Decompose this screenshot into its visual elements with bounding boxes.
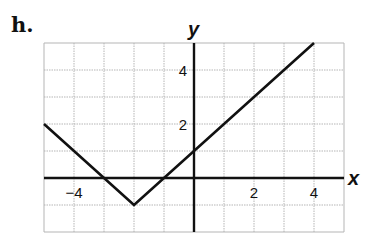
x-tick-label: 2	[250, 184, 258, 201]
y-axis-label: y	[187, 18, 200, 40]
y-tick-label: 2	[179, 116, 187, 133]
tick-labels: −42424	[65, 62, 318, 201]
x-tick-label: −4	[65, 184, 82, 201]
y-tick-label: 4	[179, 62, 187, 79]
coordinate-plane: −42424 x y	[0, 0, 382, 244]
x-axis-label: x	[347, 167, 360, 189]
x-tick-label: 4	[310, 184, 318, 201]
axes	[44, 43, 344, 232]
